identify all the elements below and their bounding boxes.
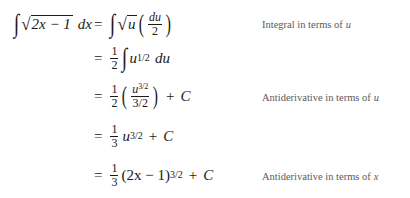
constant: C: [181, 88, 191, 105]
denominator: 2: [110, 59, 118, 72]
base: u: [122, 128, 130, 145]
equals-sign: =: [94, 88, 102, 105]
numerator: 1: [110, 45, 118, 59]
radical-icon: √: [21, 16, 30, 33]
integral-sign: ∫: [122, 45, 127, 71]
annotation-text: Integral in terms of: [262, 19, 343, 30]
denominator: 3/2: [132, 97, 149, 110]
coefficient-fraction: 1 3: [110, 162, 118, 188]
coefficient-fraction: 1 2: [110, 45, 118, 71]
differential: dx: [78, 16, 92, 33]
denominator: 3: [110, 137, 118, 150]
right-paren: ): [153, 83, 158, 109]
original-integral: ∫ √ 2x − 1 dx: [12, 6, 92, 42]
annotation-variable: u: [346, 19, 351, 30]
denominator: 3: [110, 176, 118, 189]
inner-fraction: u3/2 3/2: [131, 83, 149, 109]
numerator: 1: [110, 123, 118, 137]
equals-sign: =: [94, 128, 102, 145]
coefficient-fraction: 1 3: [110, 123, 118, 149]
plus-sign: +: [149, 128, 157, 145]
base: u: [130, 50, 138, 67]
coefficient-fraction: 1 2: [110, 83, 118, 109]
radicand: u: [127, 15, 138, 33]
square-root: √ 2x − 1: [21, 15, 73, 33]
integral-sign: ∫: [110, 11, 115, 37]
exponent: 3/2: [138, 82, 148, 91]
rhs-expression: = ∫ √ u ( du 2 ): [94, 6, 173, 42]
numerator: 1: [110, 83, 118, 97]
equals-sign: =: [94, 167, 102, 184]
radicand: 2x − 1: [31, 15, 73, 33]
left-paren: (: [139, 11, 144, 37]
right-paren: ): [166, 11, 171, 37]
denominator: 2: [151, 25, 159, 38]
numerator: du: [148, 11, 162, 25]
numerator: u3/2: [131, 83, 149, 97]
rhs-expression: = 1 3 (2x − 1)3/2 + C: [94, 157, 213, 193]
equals-sign: =: [94, 16, 102, 33]
plus-sign: +: [166, 88, 174, 105]
square-root: √ u: [118, 15, 138, 33]
rhs-expression: = 1 2 ( u3/2 3/2 ) + C: [94, 78, 191, 114]
base: (2x − 1): [121, 167, 169, 184]
equals-sign: =: [94, 50, 102, 67]
fraction: du 2: [148, 11, 162, 37]
annotation-antiderivative-u: Antiderivative in terms of u: [262, 79, 379, 115]
denominator: 2: [110, 97, 118, 110]
plus-sign: +: [189, 167, 197, 184]
radical-icon: √: [118, 16, 127, 33]
constant: C: [203, 167, 213, 184]
annotation-variable: x: [374, 171, 379, 182]
annotation-text: Antiderivative in terms of: [262, 171, 371, 182]
constant: C: [163, 128, 173, 145]
rhs-expression: = 1 3 u3/2 + C: [94, 118, 173, 154]
numerator: 1: [110, 162, 118, 176]
annotation-text: Antiderivative in terms of: [262, 92, 371, 103]
annotation-variable: u: [374, 92, 379, 103]
annotation-antiderivative-x: Antiderivative in terms of x: [262, 158, 378, 194]
integral-sign: ∫: [14, 11, 19, 37]
annotation-integral-u: Integral in terms of u: [262, 6, 351, 42]
left-paren: (: [122, 83, 127, 109]
differential: du: [155, 50, 170, 67]
rhs-expression: = 1 2 ∫ u1/2 du: [94, 40, 170, 76]
